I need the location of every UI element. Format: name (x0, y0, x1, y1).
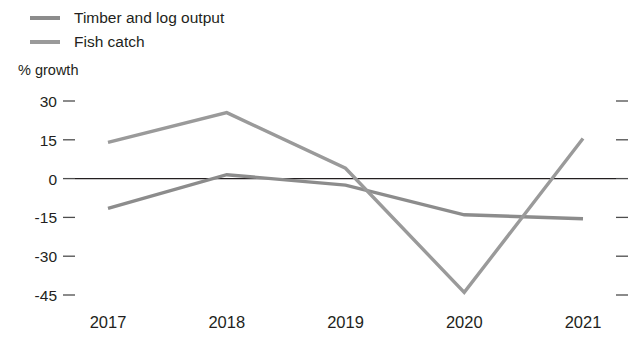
y-tick-label: 15 (40, 132, 57, 149)
x-axis-tick-labels: 20172018201920202021 (90, 313, 602, 331)
y-axis-tick-labels: 30150-15-30-45 (35, 93, 58, 304)
series-line-fish-catch (108, 113, 583, 293)
y-tick-label: 0 (48, 171, 57, 188)
chart-series (108, 113, 583, 293)
x-tick-label: 2021 (565, 313, 602, 331)
y-tick-label: -30 (35, 248, 58, 265)
x-tick-label: 2017 (90, 313, 127, 331)
series-line-timber-and-log-output (108, 175, 583, 219)
x-tick-label: 2018 (208, 313, 245, 331)
y-tick-label: -45 (35, 287, 57, 304)
y-tick-label: 30 (40, 93, 58, 110)
y-tick-label: -15 (35, 209, 57, 226)
x-tick-label: 2020 (446, 313, 483, 331)
y-axis-ticks-left (63, 101, 75, 295)
chart-plot-area: 30150-15-30-45 20172018201920202021 (0, 0, 642, 351)
y-axis-ticks-right (616, 101, 628, 295)
chart-container: Timber and log output Fish catch % growt… (0, 0, 642, 351)
x-tick-label: 2019 (327, 313, 364, 331)
